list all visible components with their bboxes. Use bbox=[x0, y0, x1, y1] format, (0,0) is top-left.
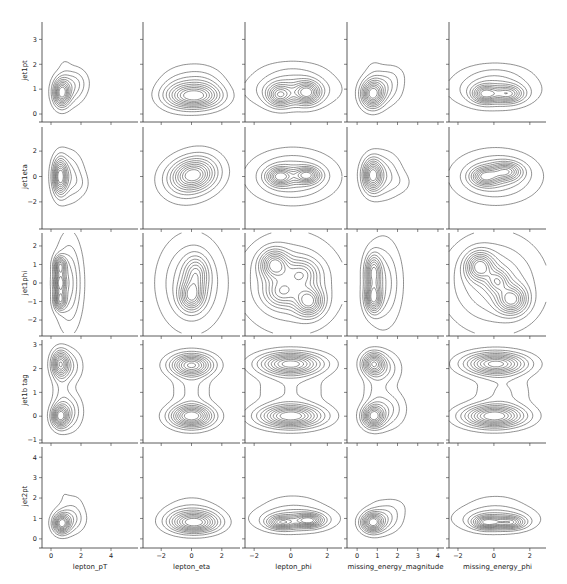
contour-level-1 bbox=[159, 348, 223, 433]
y-tick-label: 1 bbox=[33, 515, 37, 523]
contour-level-8 bbox=[57, 517, 67, 529]
contour-level-2 bbox=[251, 350, 330, 430]
contour-level-4 bbox=[465, 354, 525, 427]
contour-level-3 bbox=[169, 353, 215, 428]
x-axis-label: missing_energy_phi bbox=[463, 563, 532, 571]
y-tick-label: 2 bbox=[33, 147, 37, 155]
panel-jet2pt-vs-missing_energy_magnitude: 01234missing_energy_magnitude bbox=[344, 447, 444, 571]
contour-level-7 bbox=[178, 359, 205, 424]
contour-level-10 bbox=[280, 361, 301, 420]
y-tick-label: 0 bbox=[33, 173, 37, 181]
contour-level-1 bbox=[245, 147, 342, 206]
y-tick-label: 1 bbox=[33, 85, 37, 93]
y-tick-label: 2 bbox=[33, 242, 37, 250]
contour-level-1 bbox=[50, 233, 85, 333]
contour-level-6 bbox=[365, 163, 382, 188]
x-tick-label: 2 bbox=[79, 552, 83, 560]
panel-jet1b-tag-vs-lepton_pT: −10123jet1b tag bbox=[21, 340, 138, 446]
contour-level-10 bbox=[369, 88, 377, 98]
contour-level-10 bbox=[187, 284, 197, 301]
contour-level-5 bbox=[173, 161, 212, 190]
contour-level-10 bbox=[370, 170, 377, 181]
panel-jet1eta-vs-missing_energy_magnitude bbox=[344, 127, 444, 232]
x-axis-label: lepton_pT bbox=[73, 563, 108, 571]
contour-level-8 bbox=[177, 88, 209, 103]
x-tick-label: 3 bbox=[416, 552, 420, 560]
contour-level-8 bbox=[273, 358, 308, 422]
x-tick-label: −2 bbox=[249, 552, 259, 560]
y-tick-label: −2 bbox=[27, 316, 37, 324]
x-axis-label: missing_energy_magnitude bbox=[347, 563, 443, 571]
contour-level-5 bbox=[468, 355, 521, 426]
contour-level-8 bbox=[56, 166, 65, 187]
x-tick-label: 2 bbox=[395, 552, 399, 560]
panel-jet1eta-vs-lepton_phi bbox=[242, 127, 342, 232]
x-tick-label: 1 bbox=[375, 552, 379, 560]
panel-jet1phi-vs-lepton_pT: −2−1012jet1phi bbox=[21, 233, 138, 339]
panel-jet1pt-vs-lepton_pT: 0123jet1pt bbox=[21, 22, 138, 125]
contour-level-10 bbox=[58, 264, 63, 302]
contour-level-3 bbox=[256, 246, 328, 319]
contour-level-6 bbox=[263, 253, 321, 313]
y-tick-label: 0 bbox=[33, 412, 37, 420]
contour-level-8 bbox=[57, 84, 67, 100]
contour-level-1 bbox=[155, 146, 230, 205]
contour-level-4 bbox=[261, 353, 321, 426]
x-tick-label: 0 bbox=[189, 552, 193, 560]
contour-level-8 bbox=[477, 358, 511, 422]
contour-level-8 bbox=[266, 256, 317, 310]
panel-jet1phi-vs-lepton_phi bbox=[242, 233, 342, 339]
x-tick-label: 0 bbox=[289, 552, 293, 560]
x-tick-label: −2 bbox=[156, 552, 166, 560]
x-axis-label: lepton_eta bbox=[173, 563, 210, 571]
contour-level-10 bbox=[184, 91, 204, 100]
contour-level-8 bbox=[180, 516, 208, 528]
panel-jet2pt-vs-missing_energy_phi: −202missing_energy_phi bbox=[446, 447, 546, 571]
contour-level-7 bbox=[367, 357, 383, 423]
panel-jet2pt-vs-lepton_eta: −202lepton_eta bbox=[140, 447, 240, 571]
y-tick-label: 1 bbox=[33, 261, 37, 269]
contour-level-1 bbox=[449, 233, 546, 333]
contour-level-1 bbox=[245, 233, 342, 333]
panel-jet1pt-vs-missing_energy_phi bbox=[446, 22, 546, 125]
contour-level-5 bbox=[174, 356, 210, 426]
y-tick-label: −1 bbox=[27, 298, 37, 306]
y-tick-label: 0 bbox=[33, 535, 37, 543]
y-tick-label: 2 bbox=[33, 61, 37, 69]
panel-jet2pt-vs-lepton_phi: −202lepton_phi bbox=[242, 447, 342, 571]
contour-level-5 bbox=[261, 251, 323, 315]
x-tick-label: 2 bbox=[325, 552, 329, 560]
contour-level-4 bbox=[170, 159, 215, 193]
y-axis-label: jet2pt bbox=[21, 485, 29, 507]
panel-jet1b-tag-vs-lepton_phi bbox=[242, 340, 342, 446]
contour-level-5 bbox=[264, 355, 317, 426]
contour-level-3 bbox=[262, 75, 325, 107]
x-tick-label: 4 bbox=[109, 552, 113, 560]
panel-jet1pt-vs-lepton_phi bbox=[242, 22, 342, 125]
contour-level-8 bbox=[367, 516, 381, 527]
contour-level-2 bbox=[256, 156, 330, 198]
x-tick-label: 0 bbox=[49, 552, 53, 560]
contour-level-8 bbox=[367, 166, 379, 184]
contour-level-4 bbox=[363, 159, 387, 191]
contour-level-10 bbox=[270, 260, 314, 306]
y-tick-label: −2 bbox=[27, 198, 37, 206]
contour-level-10 bbox=[481, 90, 508, 97]
panel-jet1b-tag-vs-missing_energy_phi bbox=[446, 340, 546, 446]
contour-level-7 bbox=[273, 515, 319, 526]
panel-jet1phi-vs-missing_energy_phi bbox=[446, 233, 546, 339]
panel-jet1phi-vs-missing_energy_magnitude bbox=[344, 233, 444, 339]
y-tick-label: 3 bbox=[33, 341, 37, 349]
x-axis-label: lepton_phi bbox=[275, 563, 312, 571]
contour-level-8 bbox=[367, 85, 381, 101]
contour-level-10 bbox=[275, 172, 311, 180]
contour-level-10 bbox=[371, 288, 377, 302]
y-axis-label: jet1b tag bbox=[21, 374, 29, 407]
panel-jet1pt-vs-lepton_eta bbox=[140, 22, 240, 125]
y-tick-label: −1 bbox=[27, 436, 37, 444]
panel-jet1phi-vs-lepton_eta bbox=[140, 233, 240, 339]
x-tick-label: −2 bbox=[453, 552, 463, 560]
y-tick-label: 3 bbox=[33, 474, 37, 482]
x-tick-label: 2 bbox=[528, 552, 532, 560]
contour-level-10 bbox=[58, 170, 64, 183]
